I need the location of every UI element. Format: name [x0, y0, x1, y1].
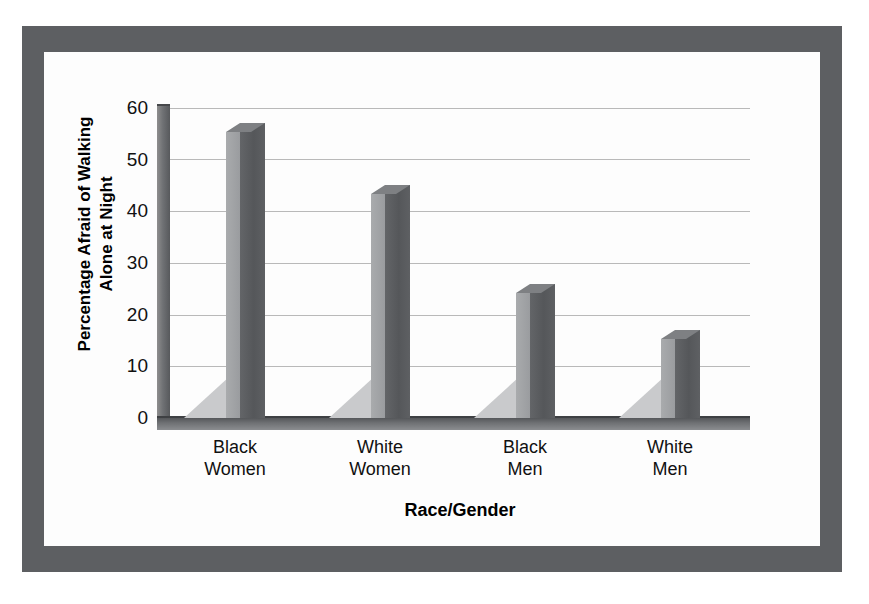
y-tick-label-30: 30	[106, 253, 148, 272]
x-tick-line-2: Men	[465, 458, 585, 480]
bar-left-face	[371, 194, 385, 418]
x-tick-label-black-women: Black Women	[175, 436, 295, 480]
y-axis-title-line-1: Percentage Afraid of Walking	[74, 89, 96, 379]
y-axis-title: Percentage Afraid of Walking Alone at Ni…	[74, 89, 118, 379]
bar-shadow	[184, 376, 230, 418]
bar-shadow	[474, 376, 520, 418]
x-tick-line-2: Women	[320, 458, 440, 480]
bar-left-face	[516, 293, 530, 418]
y-tick-label-20: 20	[106, 305, 148, 324]
x-tick-line-2: Men	[610, 458, 730, 480]
y-tick-label-0: 0	[106, 408, 148, 427]
y-tick-label-60: 60	[106, 98, 148, 117]
x-tick-line-1: White	[320, 436, 440, 458]
x-tick-label-white-women: White Women	[320, 436, 440, 480]
bar-shadow	[619, 376, 665, 418]
bar-front-face	[530, 284, 555, 418]
bar-left-face	[661, 339, 675, 418]
y-tick-label-10: 10	[106, 356, 148, 375]
bar-shadow	[329, 376, 375, 418]
floor-slab	[157, 418, 750, 430]
bar-front-face	[675, 330, 700, 418]
bar-chart: Percentage Afraid of Walking Alone at Ni…	[44, 52, 820, 546]
y-tick-label-40: 40	[106, 201, 148, 220]
figure-root: Percentage Afraid of Walking Alone at Ni…	[0, 0, 869, 604]
y-axis-title-line-2: Alone at Night	[96, 89, 118, 379]
x-tick-label-black-men: Black Men	[465, 436, 585, 480]
bar-left-face	[226, 132, 240, 418]
x-tick-line-1: Black	[175, 436, 295, 458]
plot-area	[170, 108, 750, 418]
x-tick-line-1: White	[610, 436, 730, 458]
bar-front-face	[240, 123, 265, 418]
bar-front-face	[385, 185, 410, 418]
x-tick-line-2: Women	[175, 458, 295, 480]
gridline-60	[170, 108, 750, 109]
x-tick-label-white-men: White Men	[610, 436, 730, 480]
x-axis-title: Race/Gender	[170, 500, 750, 521]
x-tick-line-1: Black	[465, 436, 585, 458]
y-tick-label-50: 50	[106, 150, 148, 169]
y-axis-wall	[157, 106, 170, 420]
